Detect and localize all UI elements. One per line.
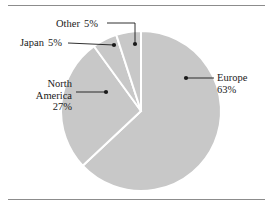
pie-label-north-america-line2: America [36,90,72,101]
pie-label-japan-name: Japan [20,37,44,48]
pie-chart-figure: Other5% Japan5% North America 27% Europe… [0,0,273,209]
pie-label-north-america-line1: North [48,78,73,89]
pie-label-europe-value: 63% [217,84,247,96]
pie-label-north-america: North America 27% [14,78,72,113]
pie-label-other-name: Other [56,18,80,29]
pie-label-north-america-value: 27% [14,101,72,113]
pie-label-japan: Japan5% [20,37,62,49]
pie-label-other-value: 5% [84,18,98,29]
pie-label-japan-value: 5% [48,37,62,48]
pie-label-europe: Europe 63% [217,72,247,95]
pie-label-other: Other5% [56,18,98,30]
pie-label-europe-name: Europe [217,72,247,83]
